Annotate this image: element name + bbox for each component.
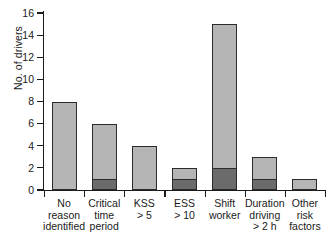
y-tick-label-16: 16 (0, 8, 34, 19)
x-tick-7 (325, 191, 326, 197)
x-label-line: period (72, 221, 136, 233)
bar-segment-light-4 (212, 24, 237, 168)
x-tick-1 (84, 191, 85, 197)
y-tick-16 (37, 12, 43, 13)
y-tick-label-2: 2 (0, 163, 34, 174)
y-tick-label-6: 6 (0, 118, 34, 129)
x-label-line: Other (273, 198, 330, 210)
y-tick-14 (37, 35, 43, 36)
y-tick-12 (37, 57, 43, 58)
y-tick-label-0: 0 (0, 185, 34, 196)
x-tick-4 (205, 191, 206, 197)
x-axis-line (43, 190, 326, 191)
y-tick-label-4: 4 (0, 141, 34, 152)
y-tick-label-10: 10 (0, 74, 34, 85)
y-tick-label-8: 8 (0, 96, 34, 107)
x-tick-0 (44, 191, 45, 197)
y-tick-10 (37, 79, 43, 80)
x-label-line: factors (273, 221, 330, 233)
bar-segment-light-1 (92, 124, 117, 179)
x-tick-3 (164, 191, 165, 197)
y-tick-label-14: 14 (0, 30, 34, 41)
y-tick-8 (37, 101, 43, 102)
bar-0 (52, 102, 77, 191)
y-tick-4 (37, 145, 43, 146)
bar-segment-light-0 (52, 102, 77, 191)
y-tick-2 (37, 167, 43, 168)
bar-segment-dark-5 (252, 179, 277, 190)
bar-2 (132, 146, 157, 190)
y-tick-6 (37, 123, 43, 124)
bar-segment-dark-3 (172, 179, 197, 190)
x-tick-2 (124, 191, 125, 197)
y-tick-label-12: 12 (0, 52, 34, 63)
bar-segment-light-2 (132, 146, 157, 190)
plot-area (44, 13, 325, 190)
bar-segment-light-3 (172, 168, 197, 179)
bar-4 (212, 24, 237, 190)
y-tick-0 (37, 189, 43, 190)
bar-segment-light-5 (252, 157, 277, 179)
x-tick-6 (285, 191, 286, 197)
bar-3 (172, 168, 197, 190)
bar-segment-dark-1 (92, 179, 117, 190)
bar-segment-dark-4 (212, 168, 237, 190)
bar-1 (92, 124, 117, 190)
x-label-6: Otherriskfactors (273, 198, 330, 233)
bar-5 (252, 157, 277, 190)
bar-segment-light-6 (292, 179, 317, 190)
bar-chart: No. of drivers 0246810121416 Noreasonide… (0, 0, 330, 243)
bar-6 (292, 179, 317, 190)
